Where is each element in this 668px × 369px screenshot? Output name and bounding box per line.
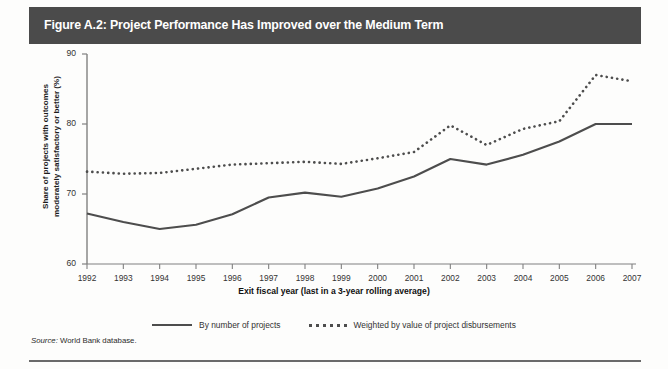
y-axis-title-line1: Share of projects with outcomes	[41, 84, 50, 209]
x-tick-label-1997: 1997	[249, 273, 289, 283]
x-tick-label-2003: 2003	[467, 273, 507, 283]
bottom-rule	[29, 360, 641, 362]
x-tick-label-1996: 1996	[212, 273, 252, 283]
x-tick-label-2006: 2006	[576, 273, 616, 283]
x-axis-title: Exit fiscal year (last in a 3-year rolli…	[0, 286, 668, 296]
x-tick-label-2005: 2005	[539, 273, 579, 283]
x-tick-label-2004: 2004	[503, 273, 543, 283]
x-tick-label-1999: 1999	[321, 273, 361, 283]
legend-item-weighted: Weighted by value of project disbursemen…	[307, 320, 516, 330]
figure-title: Figure A.2: Project Performance Has Impr…	[44, 18, 443, 32]
legend-dotted-line-swatch	[307, 324, 347, 327]
legend-label-weighted: Weighted by value of project disbursemen…	[354, 320, 516, 330]
x-tick-label-1992: 1992	[67, 273, 107, 283]
series-line-by-number	[87, 124, 632, 229]
source-note: Source: World Bank database.	[31, 336, 137, 345]
legend-item-by-number: By number of projects	[152, 320, 280, 330]
x-tick-label-1994: 1994	[140, 273, 180, 283]
y-axis-title: Share of projects with outcomes moderate…	[41, 52, 62, 242]
x-tick-label-2001: 2001	[394, 273, 434, 283]
source-label: Source:	[31, 336, 58, 345]
plot-area	[0, 48, 668, 288]
y-tick-label-70: 70	[54, 188, 76, 198]
x-tick-label-1993: 1993	[103, 273, 143, 283]
chart-figure: Share of projects with outcomes moderate…	[0, 48, 668, 348]
source-value: World Bank database.	[58, 336, 137, 345]
legend-label-by-number: By number of projects	[199, 320, 280, 330]
x-tick-label-2007: 2007	[612, 273, 652, 283]
legend-solid-line-swatch	[152, 324, 192, 327]
chart-legend: By number of projects Weighted by value …	[0, 320, 668, 330]
y-tick-label-80: 80	[54, 118, 76, 128]
y-tick-label-90: 90	[54, 48, 76, 58]
y-tick-label-60: 60	[54, 258, 76, 268]
x-tick-label-2002: 2002	[430, 273, 470, 283]
x-tick-label-1998: 1998	[285, 273, 325, 283]
series-line-weighted	[87, 75, 632, 174]
figure-page: Figure A.2: Project Performance Has Impr…	[0, 0, 668, 369]
x-tick-label-2000: 2000	[358, 273, 398, 283]
x-tick-label-1995: 1995	[176, 273, 216, 283]
